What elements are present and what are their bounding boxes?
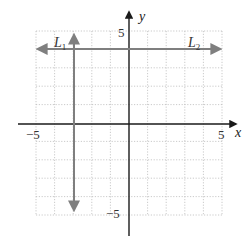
y-tick-5: 5 [118, 25, 125, 40]
x-tick-5: 5 [218, 127, 225, 142]
label-l1: L1 [53, 35, 66, 52]
y-tick-neg5: −5 [106, 206, 120, 221]
label-l2: L2 [187, 35, 200, 52]
x-tick-neg5: −5 [26, 127, 40, 142]
x-axis-label: x [234, 125, 242, 140]
y-axis-label: y [137, 9, 146, 24]
coordinate-plane: x y −5 5 5 −5 L1 L2 [0, 0, 247, 242]
